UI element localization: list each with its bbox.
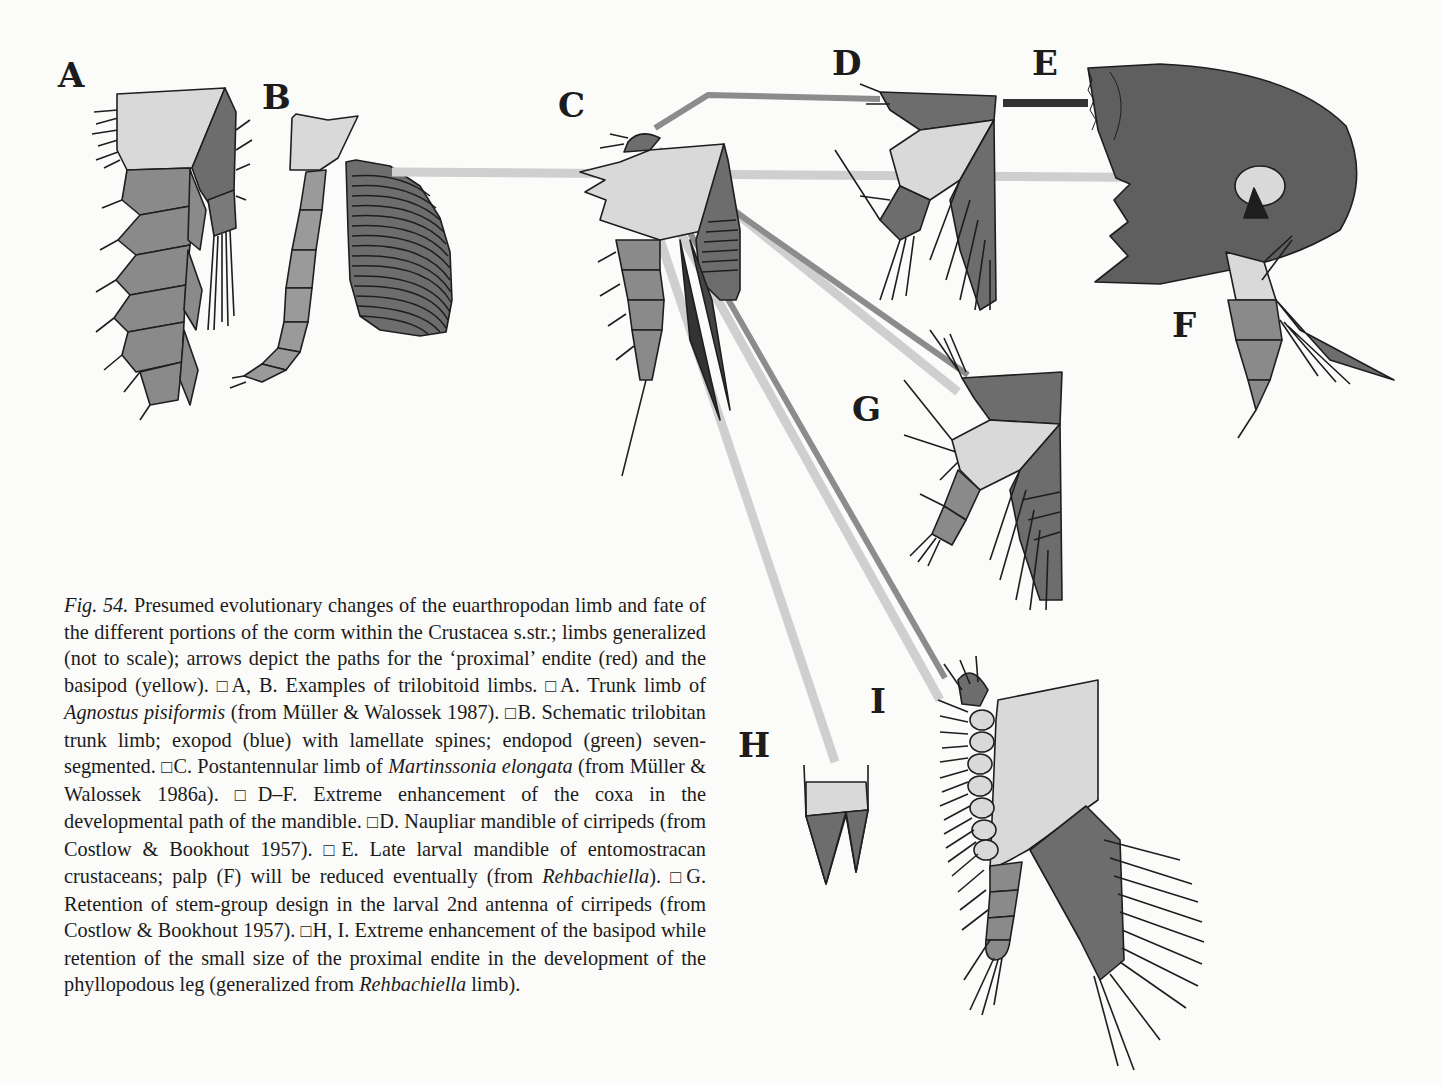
figure-number: Fig. 54. (64, 594, 128, 616)
limb-f-drawing (1226, 236, 1394, 438)
panel-label-g: G (852, 392, 881, 426)
taxon-name: Agnostus pisiformis (64, 701, 225, 723)
taxon-name: Martinssonia elongata (388, 755, 573, 777)
panel-label-f: F (1172, 308, 1196, 342)
limb-h-drawing (804, 765, 868, 884)
panel-label-e: E (1032, 46, 1058, 80)
limb-a-drawing (92, 88, 252, 420)
taxon-name: Rehbachiella (359, 973, 466, 995)
limb-e-drawing (1088, 64, 1357, 284)
panel-label-d: D (832, 46, 861, 80)
caption-segment-ab: A, B. Examples of trilobitoid limbs. (217, 674, 546, 696)
panel-label-i: I (870, 684, 886, 718)
taxon-name: Rehbachiella (542, 865, 649, 887)
limb-b-drawing (230, 114, 452, 388)
panel-label-c: C (558, 88, 585, 122)
panel-label-a: A (58, 58, 84, 92)
limb-i-drawing (938, 656, 1204, 1070)
limb-d-drawing (835, 84, 996, 310)
panel-label-b: B (262, 80, 291, 114)
panel-label-h: H (738, 728, 770, 762)
figure-caption: Fig. 54. Presumed evolutionary changes o… (64, 592, 706, 998)
